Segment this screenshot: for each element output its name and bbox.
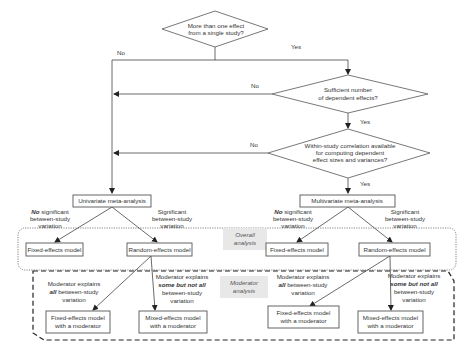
edge-label-d1-no: No [117,49,125,56]
random-effects-model-left: Random-effects model [127,243,192,256]
svg-text:Significant: Significant [158,208,187,215]
svg-text:some but not all: some but not all [390,280,438,287]
svg-text:Fixed-effects model: Fixed-effects model [51,314,105,321]
random-effects-model-right: Random-effects model [359,243,430,256]
overall-analysis-tag: Overall analysis [223,228,267,250]
svg-text:analysis: analysis [234,239,256,246]
edge-label-d1-yes: Yes [291,43,301,50]
svg-text:Moderator explains: Moderator explains [156,273,209,280]
svg-text:between-study: between-study [394,288,435,295]
svg-text:Multivariate meta-analysis: Multivariate meta-analysis [311,197,383,204]
label-significant-right: Significant between-study variation [385,208,426,229]
svg-text:Moderator explains: Moderator explains [277,273,330,280]
fixed-effects-model-left: Fixed-effects model [26,243,83,256]
fixed-effects-model-right: Fixed-effects model [266,243,328,256]
svg-text:Moderator: Moderator [230,279,259,286]
fixed-effects-with-moderator-right: Fixed-effects model with a moderator [268,306,339,328]
svg-text:Random-effects model: Random-effects model [363,246,425,253]
svg-text:Significant: Significant [391,208,420,215]
mixed-effects-with-moderator-right: Mixed-effects model with a moderator [358,311,423,333]
svg-text:between-study: between-study [273,215,314,222]
svg-text:Sufficient number: Sufficient number [324,86,372,93]
edge-label-d3-no: No [250,141,258,148]
svg-text:with a moderator: with a moderator [149,322,196,329]
svg-text:between-study: between-study [152,215,193,222]
decision-within-study-correlation: Within-study correlation available for c… [268,129,430,178]
svg-text:Fixed-effects model: Fixed-effects model [270,246,324,253]
label-moderator-some-left: Moderator explains some but not all betw… [156,273,209,304]
svg-text:variation: variation [291,289,315,296]
svg-text:Fixed-effects model: Fixed-effects model [277,309,331,316]
decision-multiple-effects: More than one effect from a single study… [162,11,268,47]
svg-text:Overall: Overall [235,231,255,238]
svg-text:with a moderator: with a moderator [366,322,413,329]
svg-text:No significant: No significant [31,208,69,215]
svg-text:of dependent effects?: of dependent effects? [318,94,378,101]
decision-sufficient-effects: Sufficient number of dependent effects? [272,75,428,113]
meta-analysis-flowchart: Overall analysis Moderator analysis [0,0,462,356]
svg-text:with a moderator: with a moderator [54,322,101,329]
label-moderator-some-right: Moderator explains some but not all betw… [388,272,441,303]
edge-label-d2-yes: Yes [360,118,370,125]
label-moderator-all-left: Moderator explains all between-study var… [48,280,101,303]
svg-text:between-study: between-study [162,289,203,296]
mixed-effects-with-moderator-left: Mixed-effects model with a moderator [139,311,207,333]
svg-text:Moderator explains: Moderator explains [48,280,101,287]
svg-text:variation: variation [402,296,426,303]
svg-text:variation: variation [38,222,62,229]
svg-text:variation: variation [281,222,305,229]
svg-text:effect sizes and variances?: effect sizes and variances? [313,156,388,163]
svg-text:variation: variation [170,297,194,304]
svg-text:Mixed-effects model: Mixed-effects model [145,314,200,321]
svg-text:Moderator explains: Moderator explains [388,272,441,279]
svg-text:some but not all: some but not all [158,281,206,288]
svg-text:Within-study correlation avail: Within-study correlation available [305,142,396,149]
svg-text:variation: variation [393,222,417,229]
svg-text:variation: variation [62,296,86,303]
svg-text:Random-effects model: Random-effects model [128,246,190,253]
edge-label-d3-yes: Yes [360,180,370,187]
label-no-significant-left: No significant between-study variation [30,208,71,229]
label-moderator-all-right: Moderator explains all between-study var… [277,273,330,296]
label-no-significant-right: No significant between-study variation [273,208,314,229]
svg-text:Univariate meta-analysis: Univariate meta-analysis [78,197,146,204]
svg-text:More than one effect: More than one effect [188,22,245,29]
moderator-analysis-tag: Moderator analysis [220,276,268,298]
univariate-meta-analysis-node: Univariate meta-analysis [73,195,151,207]
svg-text:from a single study?: from a single study? [188,29,244,36]
edge-label-d2-no: No [251,82,259,89]
svg-text:analysis: analysis [233,287,255,294]
svg-text:all between-study: all between-study [50,288,100,295]
svg-text:between-study: between-study [30,215,71,222]
svg-text:Fixed-effects model: Fixed-effects model [28,246,82,253]
label-significant-left: Significant between-study variation [152,208,193,229]
multivariate-meta-analysis-node: Multivariate meta-analysis [300,195,395,207]
svg-text:variation: variation [160,222,184,229]
svg-text:between-study: between-study [385,215,426,222]
svg-text:No significant: No significant [274,208,312,215]
svg-text:for computing dependent: for computing dependent [316,149,385,156]
svg-text:with a moderator: with a moderator [279,317,326,324]
fixed-effects-with-moderator-left: Fixed-effects model with a moderator [46,311,110,333]
svg-text:Mixed-effects model: Mixed-effects model [363,314,418,321]
svg-text:all between-study: all between-study [279,281,329,288]
